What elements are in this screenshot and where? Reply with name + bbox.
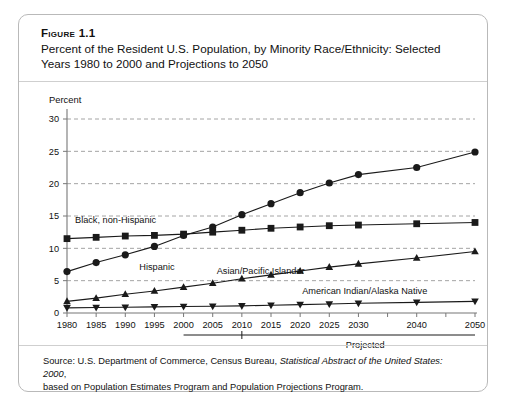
x-tick-label: 2020	[290, 320, 310, 330]
data-point-triangle-down	[63, 305, 71, 312]
data-point-circle	[471, 148, 478, 155]
data-point-triangle-down	[151, 304, 159, 311]
y-tick-label: 0	[54, 308, 59, 318]
x-tick-label: 1990	[115, 320, 135, 330]
data-point-triangle-down	[413, 300, 421, 307]
y-axis-title: Percent	[49, 94, 82, 105]
chart-plot-area: 051015202530 198019851990199520002005201…	[19, 91, 487, 355]
data-point-circle	[93, 259, 100, 266]
y-tick-label: 20	[49, 179, 59, 189]
data-point-square	[326, 222, 333, 229]
x-axis-ticks: 1980198519901995200020052010201520202025…	[57, 313, 485, 330]
data-point-circle	[151, 243, 158, 250]
data-point-circle	[326, 179, 333, 186]
y-tick-label: 5	[54, 276, 59, 286]
data-point-triangle-down	[180, 304, 188, 311]
data-point-square	[355, 222, 362, 229]
x-tick-label: 1980	[57, 320, 77, 330]
x-tick-label: 2015	[261, 320, 281, 330]
figure-title-line-2: 1980 to 2000 and Projections to 2050	[74, 57, 268, 70]
data-point-triangle-down	[121, 304, 129, 311]
figure-card: Figure 1.1 Percent of the Resident U.S. …	[18, 14, 488, 392]
source-line-1: Source: U.S. Department of Commerce, Cen…	[43, 355, 465, 381]
data-point-triangle-down	[92, 305, 100, 312]
data-point-square	[64, 235, 71, 242]
series-label-black-non-hispanic: Black, non-Hispanic	[75, 215, 157, 225]
data-point-square	[472, 219, 479, 226]
data-point-square	[297, 224, 304, 231]
x-tick-label: 2005	[202, 320, 222, 330]
y-tick-label: 10	[49, 244, 59, 254]
data-point-square	[413, 220, 420, 227]
figure-header: Figure 1.1 Percent of the Resident U.S. …	[19, 15, 487, 82]
data-point-circle	[413, 164, 420, 171]
data-point-circle	[355, 171, 362, 178]
x-tick-label: 1985	[86, 320, 106, 330]
data-point-square	[122, 233, 129, 240]
y-tick-label: 30	[49, 114, 59, 124]
source-note: Source: U.S. Department of Commerce, Cen…	[19, 345, 487, 391]
x-tick-label: 2010	[232, 320, 252, 330]
series-label-asian-pacific-islander: Asian/Pacific Islander	[217, 266, 305, 276]
data-point-square	[151, 232, 158, 239]
data-point-triangle-down	[238, 303, 246, 310]
y-axis-ticks: 051015202530	[49, 114, 67, 318]
series-label-american-indian-alaska-native: American Indian/Alaska Native	[302, 286, 427, 296]
x-tick-label: 2030	[348, 320, 368, 330]
source-line-2: based on Population Estimates Program an…	[43, 381, 465, 394]
y-tick-label: 15	[49, 211, 59, 221]
x-tick-label: 1995	[144, 320, 164, 330]
x-tick-label: 2000	[173, 320, 193, 330]
x-tick-label: 2050	[465, 320, 485, 330]
x-tick-label: 2025	[319, 320, 339, 330]
page-title: Percent of the Resident U.S. Population,…	[41, 41, 465, 71]
data-point-circle	[122, 251, 129, 258]
x-tick-label: 2040	[406, 320, 426, 330]
data-point-circle	[209, 223, 216, 230]
series-american-indian-alaska-native	[63, 299, 479, 312]
data-point-circle	[238, 211, 245, 218]
series-label-hispanic: Hispanic	[139, 262, 175, 272]
axes-group	[67, 109, 477, 313]
data-point-circle	[267, 200, 274, 207]
data-point-circle	[297, 189, 304, 196]
data-point-square	[93, 234, 100, 241]
data-point-triangle-down	[471, 299, 479, 306]
y-tick-label: 25	[49, 147, 59, 157]
line-chart: 051015202530 198019851990199520002005201…	[19, 91, 487, 355]
source-line-1-prefix: Source: U.S. Department of Commerce, Cen…	[43, 356, 280, 366]
data-point-square	[238, 227, 245, 234]
figure-number-label: Figure 1.1	[41, 27, 465, 39]
data-point-circle	[63, 268, 70, 275]
data-point-circle	[180, 232, 187, 239]
source-line-1-suffix: ,	[64, 369, 67, 379]
data-point-triangle-up	[471, 248, 479, 255]
data-point-square	[268, 225, 275, 232]
data-point-triangle-down	[209, 303, 217, 310]
